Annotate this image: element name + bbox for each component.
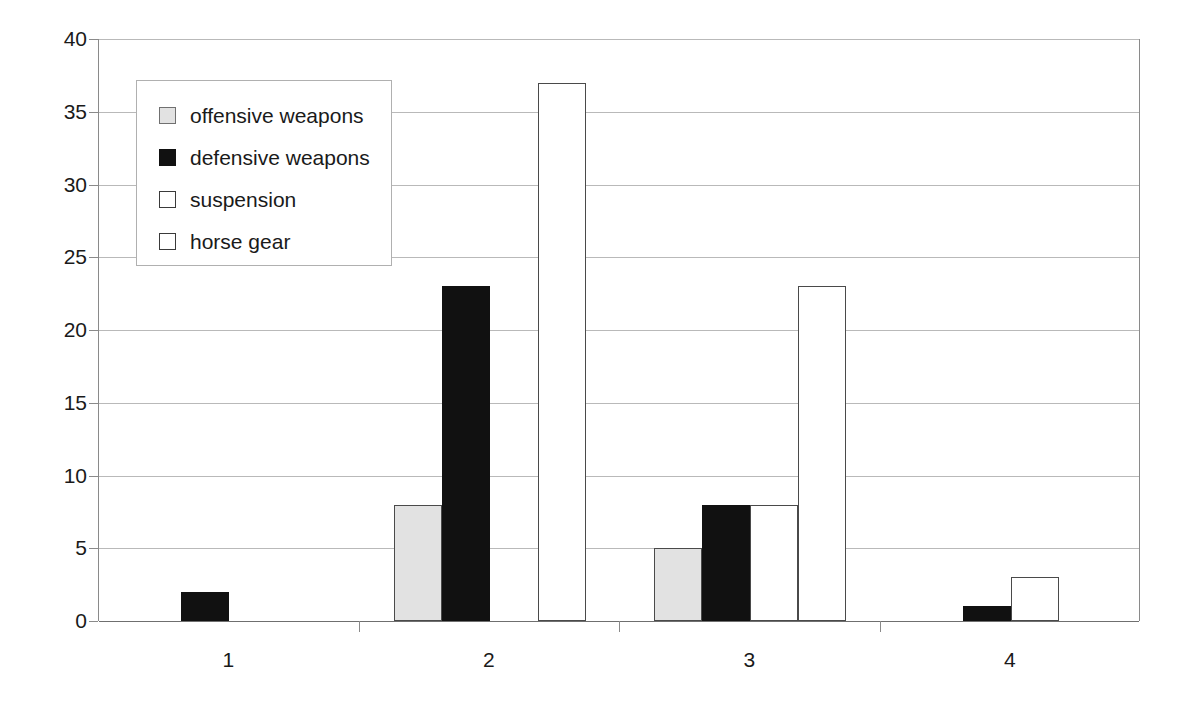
- y-tick-mark-20: [89, 330, 98, 331]
- legend-label-offensive-weapons: offensive weapons: [190, 105, 364, 126]
- x-axis-separator-1: [359, 621, 360, 632]
- bar-4-defensive-weapons: [963, 606, 1011, 621]
- bar-2-defensive-weapons: [442, 286, 490, 621]
- y-tick-label-40: 40: [17, 28, 87, 49]
- y-tick-mark-35: [89, 112, 98, 113]
- y-tick-mark-0: [89, 621, 98, 622]
- bar-3-horse-gear: [798, 286, 846, 621]
- y-tick-label-15: 15: [17, 392, 87, 413]
- y-tick-mark-25: [89, 257, 98, 258]
- y-tick-mark-5: [89, 548, 98, 549]
- bar-3-suspension: [750, 505, 798, 621]
- y-tick-label-20: 20: [17, 319, 87, 340]
- x-axis-separator-3: [880, 621, 881, 632]
- gridline-10: [99, 476, 1139, 477]
- y-tick-label-25: 25: [17, 246, 87, 267]
- x-tick-label-3: 3: [619, 648, 880, 672]
- gridline-40: [99, 39, 1139, 40]
- y-tick-label-10: 10: [17, 465, 87, 486]
- bar-2-offensive-weapons: [394, 505, 442, 621]
- y-tick-label-5: 5: [17, 537, 87, 558]
- y-tick-mark-30: [89, 185, 98, 186]
- y-tick-label-0: 0: [17, 610, 87, 631]
- bar-3-offensive-weapons: [654, 548, 702, 621]
- legend-label-defensive-weapons: defensive weapons: [190, 147, 370, 168]
- bar-2-horse-gear: [538, 83, 586, 621]
- bar-3-defensive-weapons: [702, 505, 750, 621]
- legend-swatch-offensive-weapons-icon: [159, 107, 176, 124]
- legend-label-horse-gear: horse gear: [190, 231, 290, 252]
- legend-item-defensive-weapons[interactable]: defensive weapons: [159, 136, 391, 178]
- x-tick-label-2: 2: [359, 648, 620, 672]
- gridline-20: [99, 330, 1139, 331]
- gridline-15: [99, 403, 1139, 404]
- x-axis-separator-2: [619, 621, 620, 632]
- legend-item-offensive-weapons[interactable]: offensive weapons: [159, 94, 391, 136]
- y-tick-mark-15: [89, 403, 98, 404]
- y-tick-mark-10: [89, 476, 98, 477]
- gridline-5: [99, 548, 1139, 549]
- bar-4-suspension: [1011, 577, 1059, 621]
- legend-item-horse-gear[interactable]: horse gear: [159, 220, 391, 262]
- y-tick-mark-40: [89, 39, 98, 40]
- x-tick-label-1: 1: [98, 648, 359, 672]
- bar-1-defensive-weapons: [181, 592, 229, 621]
- x-tick-label-4: 4: [880, 648, 1141, 672]
- legend-swatch-horse-gear-icon: [159, 233, 176, 250]
- y-tick-label-30: 30: [17, 174, 87, 195]
- legend-swatch-suspension-icon: [159, 191, 176, 208]
- legend-label-suspension: suspension: [190, 189, 296, 210]
- legend-swatch-defensive-weapons-icon: [159, 149, 176, 166]
- legend-item-suspension[interactable]: suspension: [159, 178, 391, 220]
- chart-legend: offensive weapons defensive weapons susp…: [136, 80, 392, 266]
- bar-chart: 0510152025303540 1234 offensive weapons …: [0, 0, 1182, 708]
- y-tick-label-35: 35: [17, 101, 87, 122]
